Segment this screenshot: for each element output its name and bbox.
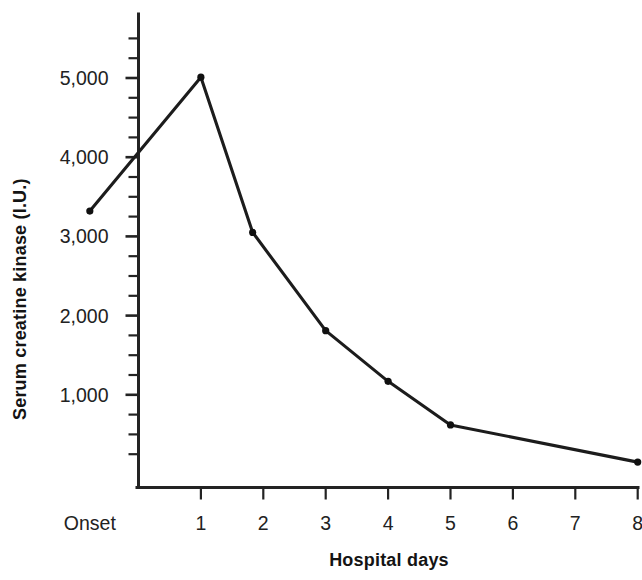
data-point xyxy=(249,229,256,236)
y-tick-label: 5,000 xyxy=(60,67,109,89)
y-tick-label: 1,000 xyxy=(60,384,109,406)
y-tick-label: 2,000 xyxy=(60,305,109,327)
x-tick-label: 1 xyxy=(195,512,206,534)
series-markers xyxy=(86,74,641,466)
line-chart: 5,0004,0003,0002,0001,000 Onset12345678 … xyxy=(0,0,642,580)
data-point xyxy=(197,74,204,81)
x-tick-label: 4 xyxy=(383,512,394,534)
y-axis-tick-labels: 5,0004,0003,0002,0001,000 xyxy=(60,67,109,406)
data-series-group xyxy=(86,74,641,466)
x-tick-label: 6 xyxy=(507,512,518,534)
data-point xyxy=(86,207,93,214)
x-axis-tick-labels: Onset12345678 xyxy=(64,512,642,534)
data-point xyxy=(634,459,641,466)
x-tick-label: 2 xyxy=(258,512,269,534)
y-axis-ticks xyxy=(126,38,139,454)
y-tick-label: 3,000 xyxy=(60,225,109,247)
x-tick-label: Onset xyxy=(64,512,117,534)
y-axis-title: Serum creatine kinase (I.U.) xyxy=(10,178,30,420)
y-tick-label: 4,000 xyxy=(60,146,109,168)
x-tick-label: 7 xyxy=(570,512,581,534)
chart-container: 5,0004,0003,0002,0001,000 Onset12345678 … xyxy=(0,0,642,580)
x-tick-label: 3 xyxy=(320,512,331,534)
x-axis-title: Hospital days xyxy=(329,550,449,570)
x-tick-label: 8 xyxy=(632,512,642,534)
series-line-serum-ck xyxy=(90,77,638,462)
data-point xyxy=(322,327,329,334)
axes-group xyxy=(137,14,638,488)
x-axis-ticks xyxy=(201,488,638,500)
data-point xyxy=(447,421,454,428)
x-tick-label: 5 xyxy=(445,512,456,534)
data-point xyxy=(385,378,392,385)
